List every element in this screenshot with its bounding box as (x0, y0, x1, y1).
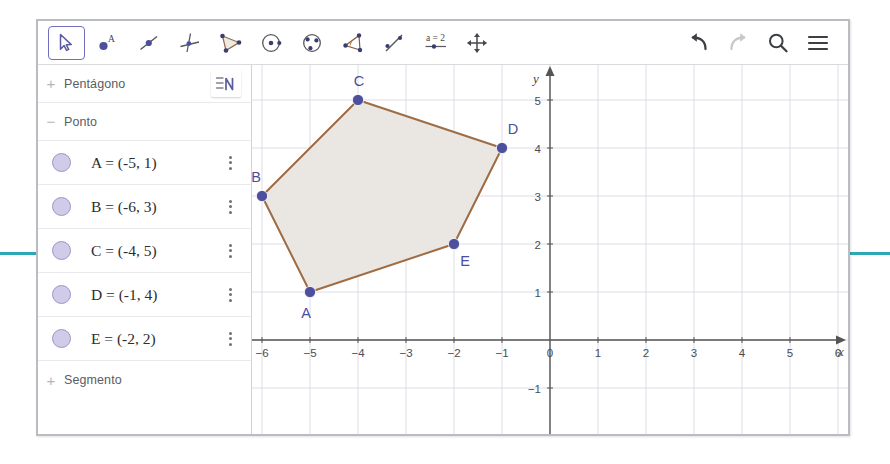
algebra-group-pentagono[interactable]: + Pentágono (38, 65, 251, 103)
vertex-point-a (304, 286, 315, 297)
point-equation: A = (-5, 1) (91, 154, 157, 172)
algebra-group-ponto[interactable]: − Ponto (38, 103, 251, 141)
x-tick-label: −5 (303, 347, 316, 359)
point-marker-icon[interactable] (52, 285, 71, 304)
more-options-icon[interactable] (229, 332, 233, 346)
y-tick-label: 4 (535, 143, 542, 155)
algebra-item-point-d[interactable]: D = (-1, 4) (38, 273, 251, 317)
svg-text:A: A (108, 33, 115, 43)
x-tick-label: 3 (691, 347, 697, 359)
more-options-icon[interactable] (229, 200, 233, 214)
vertex-point-e (448, 238, 459, 249)
x-tick-label: 5 (787, 347, 793, 359)
vertex-label-a: A (301, 305, 311, 321)
x-tick-label: −1 (495, 347, 508, 359)
x-tick-label: −3 (399, 347, 412, 359)
more-options-icon[interactable] (229, 156, 233, 170)
undo-button[interactable] (678, 26, 718, 60)
algebra-item-point-b[interactable]: B = (-6, 3) (38, 185, 251, 229)
point-equation: E = (-2, 2) (91, 330, 156, 348)
angle-tool[interactable] (335, 26, 372, 60)
expand-icon-segmento[interactable]: + (38, 373, 64, 388)
polygon-tool[interactable] (212, 26, 249, 60)
expand-icon-pentagono[interactable]: + (38, 76, 64, 91)
point-equation: D = (-1, 4) (91, 286, 157, 304)
point-equation: C = (-4, 5) (91, 242, 157, 260)
screenshot-root: A (0, 0, 890, 464)
graphics-view[interactable]: xy−6−5−4−3−2−10123456−112345 ABCDE (252, 65, 848, 434)
algebra-view-sidebar: + Pentágono − Ponto A = (-5, 1) B = (-6,… (38, 65, 252, 434)
x-tick-label: 2 (643, 347, 649, 359)
segment-tool[interactable] (130, 26, 167, 60)
point-marker-icon[interactable] (52, 197, 71, 216)
x-tick-label: −6 (255, 347, 268, 359)
algebra-item-point-c[interactable]: C = (-4, 5) (38, 229, 251, 273)
point-equation: B = (-6, 3) (91, 198, 157, 216)
collapse-icon-ponto[interactable]: − (38, 114, 64, 129)
y-tick-label: 5 (535, 95, 541, 107)
algebra-group-label: Ponto (64, 115, 97, 129)
x-tick-label: −4 (351, 347, 365, 359)
x-tick-label: 4 (739, 347, 746, 359)
x-tick-label: −2 (447, 347, 460, 359)
geogebra-app-frame: A (36, 19, 850, 436)
circle-center-point-tool[interactable] (253, 26, 290, 60)
coordinate-plane[interactable]: xy−6−5−4−3−2−10123456−112345 ABCDE (252, 65, 848, 434)
y-tick-label: 2 (535, 239, 541, 251)
search-button[interactable] (758, 26, 798, 60)
main-split: + Pentágono − Ponto A = (-5, 1) B = (-6,… (38, 65, 848, 434)
reflect-about-line-tool[interactable] (376, 26, 413, 60)
move-tool[interactable] (48, 26, 85, 60)
more-options-icon[interactable] (229, 244, 233, 258)
vertex-label-b: B (252, 169, 261, 185)
algebra-group-segmento[interactable]: + Segmento (38, 361, 251, 399)
vertex-label-e: E (460, 253, 470, 269)
algebra-item-point-a[interactable]: A = (-5, 1) (38, 141, 251, 185)
vertex-point-d (496, 142, 507, 153)
x-tick-label: 6 (835, 347, 841, 359)
vertex-point-c (352, 94, 363, 105)
y-axis-arrowhead (546, 66, 555, 76)
y-tick-label: −1 (528, 383, 541, 395)
vertex-label-c: C (354, 73, 364, 89)
point-tool[interactable]: A (89, 26, 126, 60)
y-tick-label: 1 (535, 287, 541, 299)
algebra-item-point-e[interactable]: E = (-2, 2) (38, 317, 251, 361)
toolbar: A (38, 21, 848, 65)
vertex-point-b (256, 190, 267, 201)
redo-button[interactable] (718, 26, 758, 60)
menu-button[interactable] (798, 26, 838, 60)
algebra-group-label: Pentágono (64, 77, 125, 91)
circle-through-three-points-tool[interactable] (294, 26, 331, 60)
y-tick-label: 3 (535, 191, 541, 203)
x-tick-label: 0 (547, 347, 553, 359)
y-axis-label: y (531, 71, 539, 86)
vertex-label-d: D (508, 121, 518, 137)
svg-text:a = 2: a = 2 (426, 33, 445, 43)
perpendicular-line-tool[interactable] (171, 26, 208, 60)
point-marker-icon[interactable] (52, 153, 71, 172)
algebra-group-label: Segmento (64, 373, 122, 387)
more-options-icon[interactable] (229, 288, 233, 302)
point-marker-icon[interactable] (52, 329, 71, 348)
slider-tool[interactable]: a = 2 (417, 26, 454, 60)
point-marker-icon[interactable] (52, 241, 71, 260)
move-graphics-tool[interactable] (458, 26, 495, 60)
x-tick-label: 1 (595, 347, 601, 359)
